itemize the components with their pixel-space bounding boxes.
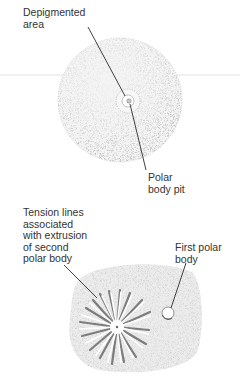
label-first-polar-body: First polar body: [175, 242, 222, 265]
label-depigmented-area: Depigmented area: [23, 7, 85, 30]
label-tension-lines: Tension lines associated with extrusion …: [23, 207, 87, 265]
polar-body-pit: [127, 99, 131, 103]
depigmented-area: [116, 89, 140, 113]
illustration: [0, 0, 240, 387]
label-polar-body-pit: Polar body pit: [148, 172, 185, 195]
